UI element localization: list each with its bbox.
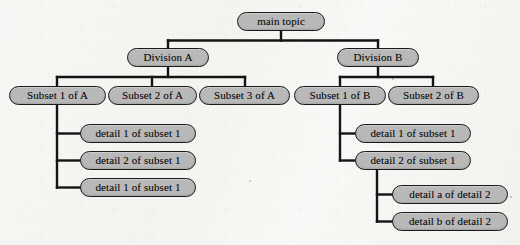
connector-layer: [0, 0, 520, 245]
node-detail-3-of-subset-1-a[interactable]: detail 1 of subset 1: [80, 178, 196, 197]
node-subset-2-of-b-label: Subset 2 of B: [403, 90, 464, 101]
node-detail-a-of-detail-2-label: detail a of detail 2: [409, 189, 490, 200]
node-detail-b-of-detail-2[interactable]: detail b of detail 2: [392, 212, 508, 231]
node-detail-1-of-subset-1-a[interactable]: detail 1 of subset 1: [80, 124, 196, 143]
node-subset-1-of-a-label: Subset 1 of A: [27, 90, 88, 101]
node-subset-3-of-a-label: Subset 3 of A: [214, 90, 275, 101]
node-division-a[interactable]: Division A: [127, 48, 209, 67]
node-subset-2-of-a-label: Subset 2 of A: [122, 90, 183, 101]
node-division-b[interactable]: Division B: [337, 48, 419, 67]
node-detail-b-of-detail-2-label: detail b of detail 2: [409, 216, 491, 227]
node-subset-1-of-a[interactable]: Subset 1 of A: [9, 86, 106, 105]
node-subset-2-of-a[interactable]: Subset 2 of A: [108, 86, 197, 105]
node-detail-2-of-subset-1-b-label: detail 2 of subset 1: [370, 155, 455, 166]
node-division-b-label: Division B: [354, 52, 403, 63]
diagram-canvas: main topic Division A Division B Subset …: [0, 0, 520, 245]
node-root-label: main topic: [257, 16, 305, 27]
node-subset-1-of-b-label: Subset 1 of B: [310, 90, 371, 101]
node-detail-1-of-subset-1-b[interactable]: detail 1 of subset 1: [355, 124, 471, 143]
node-root[interactable]: main topic: [237, 12, 325, 31]
node-detail-3-of-subset-1-a-label: detail 1 of subset 1: [95, 182, 180, 193]
node-detail-2-of-subset-1-a-label: detail 2 of subset 1: [95, 155, 180, 166]
node-division-a-label: Division A: [144, 52, 193, 63]
node-detail-a-of-detail-2[interactable]: detail a of detail 2: [392, 185, 508, 204]
node-detail-2-of-subset-1-b[interactable]: detail 2 of subset 1: [355, 151, 471, 170]
node-detail-1-of-subset-1-a-label: detail 1 of subset 1: [95, 128, 180, 139]
node-detail-1-of-subset-1-b-label: detail 1 of subset 1: [370, 128, 455, 139]
node-detail-2-of-subset-1-a[interactable]: detail 2 of subset 1: [80, 151, 196, 170]
node-subset-2-of-b[interactable]: Subset 2 of B: [388, 86, 479, 105]
node-subset-3-of-a[interactable]: Subset 3 of A: [199, 86, 290, 105]
node-subset-1-of-b[interactable]: Subset 1 of B: [294, 86, 386, 105]
